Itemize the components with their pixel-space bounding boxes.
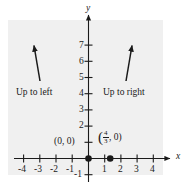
- x-tick-label--2: -2: [50, 165, 58, 175]
- four-thirds-point-label: ( 4 3 , 0): [98, 130, 122, 146]
- fraction-denominator: 3: [103, 137, 109, 145]
- x-tick-label-3: 3: [134, 165, 139, 175]
- y-axis-label: y: [86, 4, 90, 14]
- y-tick-label--1: -1: [74, 170, 82, 180]
- graph-figure: y x -4 -3 -2 -1 1 2 3 4 -1 2 3 4 5 6 7 U…: [0, 0, 191, 195]
- y-tick-label-5: 5: [79, 73, 84, 83]
- y-tick-label-2: 2: [79, 121, 84, 131]
- four-thirds-point-marker: [107, 155, 114, 162]
- up-to-left-arrow: [34, 46, 40, 82]
- fraction-four-thirds: 4 3: [103, 130, 109, 146]
- x-tick-label-1: 1: [102, 165, 107, 175]
- up-to-right-arrow: [126, 46, 132, 82]
- x-tick-label-4: 4: [150, 165, 155, 175]
- origin-point-label: (0, 0): [54, 137, 75, 147]
- x-tick-label--1: -1: [66, 165, 74, 175]
- x-tick-label--3: -3: [34, 165, 42, 175]
- up-to-right-caption: Up to right: [103, 88, 145, 98]
- x-tick-label--4: -4: [18, 165, 26, 175]
- up-to-left-caption: Up to left: [16, 88, 52, 98]
- frac-close-text: , 0): [109, 133, 122, 143]
- fraction-numerator: 4: [103, 130, 109, 137]
- graph-canvas: [0, 0, 191, 195]
- x-axis-label: x: [176, 152, 180, 162]
- y-tick-label-4: 4: [79, 89, 84, 99]
- origin-point-marker: [85, 155, 92, 162]
- x-tick-label-2: 2: [118, 165, 123, 175]
- y-tick-label-7: 7: [79, 41, 84, 51]
- y-tick-label-3: 3: [79, 105, 84, 115]
- y-tick-label-6: 6: [79, 57, 84, 67]
